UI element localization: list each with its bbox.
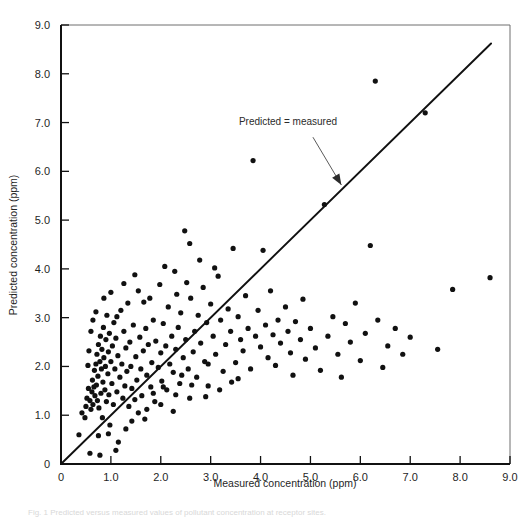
data-point [196,313,201,318]
data-point [141,299,146,304]
data-point [94,352,99,357]
data-point [86,348,91,353]
data-point [201,285,206,290]
data-point [93,309,98,314]
scatter-plot: 01.02.03.04.05.06.07.08.09.0 01.02.03.04… [0,0,530,519]
data-point [141,348,146,353]
data-point [103,364,108,369]
data-point [167,361,172,366]
data-point [151,318,156,323]
data-point [363,331,368,336]
data-point [208,301,213,306]
data-point [212,265,217,270]
data-point [285,329,290,334]
data-point [159,378,164,383]
data-point [151,391,156,396]
data-point [181,355,186,360]
data-point [96,405,101,410]
data-point [157,282,162,287]
data-point [339,375,344,380]
data-point [163,343,168,348]
data-point [268,288,273,293]
data-point [172,269,177,274]
data-point [108,290,113,295]
data-point [116,439,121,444]
data-point [223,342,228,347]
annotation-predicted-equals-measured: Predicted = measured [239,116,341,185]
data-point [245,326,250,331]
data-point [133,354,138,359]
y-tick-label: 1.0 [35,409,50,421]
data-point [450,287,455,292]
data-point [123,345,128,350]
data-point [275,318,280,323]
data-point [298,337,303,342]
data-point [192,329,197,334]
data-point [113,448,118,453]
data-point [100,379,105,384]
data-point [103,337,108,342]
data-point [120,396,125,401]
data-point [104,313,109,318]
data-point [238,337,243,342]
data-point [335,352,340,357]
y-axis-title: Predicted concentration (ppm) [7,175,19,316]
data-point [206,383,211,388]
data-point [330,314,335,319]
data-point [186,366,191,371]
data-point [82,415,87,420]
figure-caption: Fig. 1 Predicted versus measured values … [28,508,326,517]
data-point [101,325,106,330]
data-point [198,340,203,345]
data-point [122,383,127,388]
data-point [375,318,380,323]
data-point [143,326,148,331]
data-point [134,378,139,383]
data-point [213,352,218,357]
data-point [115,353,120,358]
data-point [204,320,209,325]
data-point [113,336,118,341]
data-point [106,349,111,354]
data-point [203,394,208,399]
data-point [149,360,154,365]
data-point [110,343,115,348]
data-point [229,379,234,384]
data-point [270,332,275,337]
data-point [171,409,176,414]
data-point [95,374,100,379]
data-point [136,288,141,293]
data-point [385,343,390,348]
data-point [119,361,124,366]
data-point [179,373,184,378]
data-point [217,387,222,392]
data-point [107,331,112,336]
data-point [132,397,137,402]
x-tick-label: 1.0 [103,471,118,483]
data-point [313,345,318,350]
data-point [184,280,189,285]
data-point [102,387,107,392]
data-point [236,314,241,319]
data-point [156,365,161,370]
y-tick-label: 9.0 [35,19,50,31]
data-point [211,334,216,339]
data-point [125,300,130,305]
data-point [273,363,278,368]
data-point [158,402,163,407]
y-tick-label: 4.0 [35,263,50,275]
data-point [221,369,226,374]
data-point [300,297,305,302]
data-point [90,402,95,407]
data-point [171,370,176,375]
data-point [197,258,202,263]
data-point [183,337,188,342]
data-point [236,376,241,381]
data-point [142,417,147,422]
data-point [293,319,298,324]
data-point [250,158,255,163]
data-point [253,334,258,339]
y-axis-tick-labels: 01.02.03.04.05.06.07.08.09.0 [35,19,50,470]
data-point [176,325,181,330]
data-point [98,391,103,396]
